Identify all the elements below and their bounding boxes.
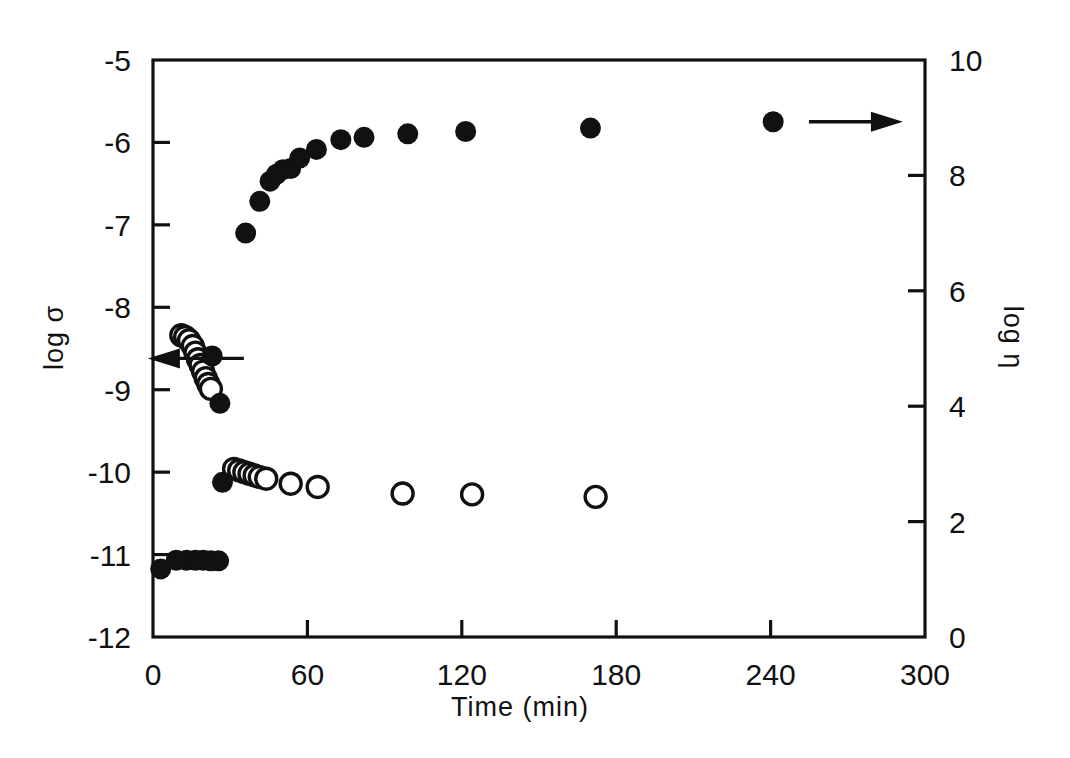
y-tick-labels-left: -5-6-7-8-9-10-11-12	[88, 44, 131, 654]
y-tick-label-right: 4	[949, 390, 966, 423]
x-axis-label: Time (min)	[360, 692, 680, 723]
y-tick-label-left: -11	[90, 539, 131, 572]
y-axis-label-left: log σ	[39, 278, 70, 398]
data-point-filled	[212, 472, 233, 493]
data-point-filled	[763, 111, 784, 132]
x-tick-label: 240	[746, 658, 796, 691]
x-tick-label: 120	[437, 658, 487, 691]
right-arrow	[809, 112, 903, 132]
y-tick-label-right: 0	[949, 621, 966, 654]
x-tick-labels: 060120180240300	[145, 658, 950, 691]
data-point-filled	[235, 223, 256, 244]
y-tick-label-left: -5	[104, 44, 131, 77]
y-tick-label-left: -6	[104, 126, 131, 159]
plot-frame	[153, 60, 925, 637]
y-tick-label-right: 2	[949, 506, 966, 539]
data-point-open	[256, 468, 277, 489]
y-tick-label-left: -10	[88, 456, 131, 489]
data-point-open	[462, 484, 483, 505]
axis-ticks	[153, 142, 925, 637]
data-point-open	[392, 483, 413, 504]
figure-container: 060120180240300 -5-6-7-8-9-10-11-12 0246…	[0, 0, 1070, 758]
y-axis-label-right: log η	[997, 278, 1028, 398]
x-tick-label: 300	[900, 658, 950, 691]
data-point-filled	[330, 129, 351, 150]
x-tick-label: 180	[591, 658, 641, 691]
y-tick-label-right: 8	[949, 159, 966, 192]
axis-frame	[153, 60, 925, 637]
data-point-filled	[354, 127, 375, 148]
y-tick-labels-right: 0246810	[949, 44, 982, 654]
x-tick-label: 0	[145, 658, 162, 691]
data-point-filled	[202, 346, 223, 367]
data-point-filled	[455, 121, 476, 142]
series-filled-circle-points	[150, 111, 783, 579]
data-point-filled	[209, 393, 230, 414]
y-tick-label-left: -7	[104, 209, 131, 242]
y-tick-label-left: -9	[104, 374, 131, 407]
data-point-filled	[306, 139, 327, 160]
data-point-filled	[249, 191, 270, 212]
y-tick-label-right: 6	[949, 275, 966, 308]
data-point-filled	[580, 118, 601, 139]
data-point-open	[280, 473, 301, 494]
plot-area: 060120180240300 -5-6-7-8-9-10-11-12 0246…	[0, 0, 1070, 758]
y-tick-label-left: -8	[104, 291, 131, 324]
y-tick-label-right: 10	[949, 44, 982, 77]
x-tick-label: 60	[291, 658, 324, 691]
data-point-open	[307, 476, 328, 497]
data-point-filled	[397, 123, 418, 144]
data-point-filled	[208, 550, 229, 571]
axis-arrow-annotations	[148, 112, 903, 369]
data-point-open	[585, 486, 606, 507]
series-open-circle-points	[171, 325, 606, 508]
y-tick-label-left: -12	[88, 621, 131, 654]
arrow-head	[871, 112, 903, 132]
